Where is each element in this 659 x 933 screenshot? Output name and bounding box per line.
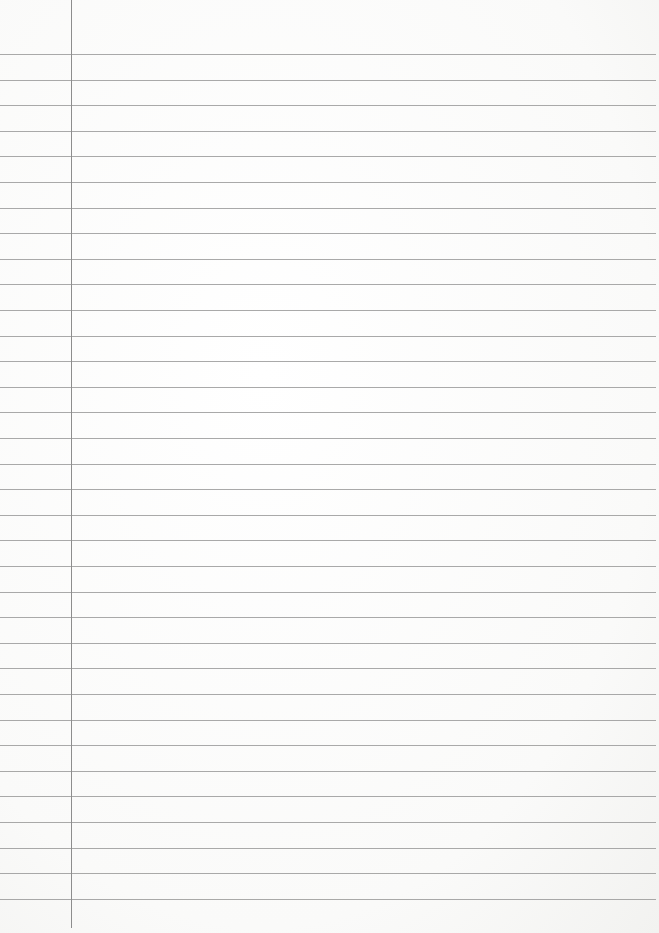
ruled-line (0, 182, 656, 183)
ruled-line (0, 592, 656, 593)
ruled-line (0, 720, 656, 721)
ruled-line (0, 771, 656, 772)
margin-line (71, 0, 72, 928)
ruled-line (0, 489, 656, 490)
ruled-line (0, 438, 656, 439)
ruled-line (0, 156, 656, 157)
ruled-line (0, 873, 656, 874)
ruled-line (0, 284, 656, 285)
ruled-line (0, 131, 656, 132)
ruled-line (0, 668, 656, 669)
ruled-line (0, 566, 656, 567)
ruled-line (0, 848, 656, 849)
ruled-line (0, 259, 656, 260)
ruled-line (0, 796, 656, 797)
ruled-line (0, 336, 656, 337)
ruled-line (0, 694, 656, 695)
ruled-line (0, 745, 656, 746)
ruled-line (0, 643, 656, 644)
ruled-line (0, 617, 656, 618)
ruled-line (0, 233, 656, 234)
ruled-line (0, 208, 656, 209)
ruled-line (0, 822, 656, 823)
ruled-line (0, 412, 656, 413)
ruled-line (0, 515, 656, 516)
ruled-line (0, 387, 656, 388)
ruled-line (0, 540, 656, 541)
lined-paper-sheet (0, 0, 659, 933)
ruled-line (0, 464, 656, 465)
ruled-line (0, 80, 656, 81)
ruled-line (0, 899, 656, 900)
ruled-line (0, 310, 656, 311)
ruled-line (0, 54, 656, 55)
ruled-line (0, 105, 656, 106)
ruled-line (0, 361, 656, 362)
